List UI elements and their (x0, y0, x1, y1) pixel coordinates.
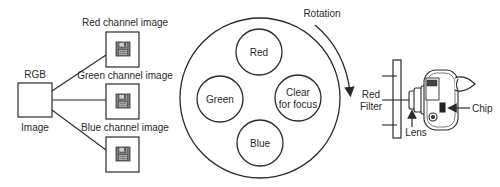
camera-icon (409, 70, 475, 130)
red-channel-label: Red channel image (82, 17, 169, 28)
filter-red: Red (236, 29, 282, 75)
svg-text:Green: Green (206, 94, 234, 105)
filter-green: Green (197, 76, 243, 122)
filter-wheel: Red Green Clear for focus Blue (180, 18, 340, 178)
image-label: Image (21, 122, 49, 133)
channel-red: Red channel image (82, 17, 169, 67)
rgb-image-node: RGB Image (18, 69, 52, 133)
filter-clear: Clear for focus (275, 75, 321, 121)
blue-channel-label: Blue channel image (81, 122, 169, 133)
svg-text:for focus: for focus (279, 99, 317, 110)
svg-text:Filter: Filter (360, 101, 383, 112)
red-filter: Red Filter (360, 60, 410, 138)
filter-blue: Blue (237, 120, 283, 166)
channel-blue: Blue channel image (81, 122, 169, 172)
rgb-image-box (18, 83, 52, 117)
floppy-disk-icon (116, 94, 130, 108)
svg-text:Red: Red (250, 47, 268, 58)
channel-green: Green channel image (77, 70, 173, 119)
floppy-disk-icon (116, 147, 130, 161)
rgb-label: RGB (24, 69, 46, 80)
svg-text:Lens: Lens (405, 127, 427, 138)
svg-text:Chip: Chip (472, 103, 493, 114)
svg-text:Clear: Clear (286, 87, 311, 98)
green-channel-label: Green channel image (77, 70, 173, 81)
floppy-disk-icon (116, 42, 130, 56)
filter-wheel-diagram: RGB Image Red channel image Green channe… (0, 0, 500, 187)
svg-text:Blue: Blue (250, 138, 270, 149)
svg-text:Red: Red (362, 89, 380, 100)
svg-text:Rotation: Rotation (303, 8, 340, 19)
